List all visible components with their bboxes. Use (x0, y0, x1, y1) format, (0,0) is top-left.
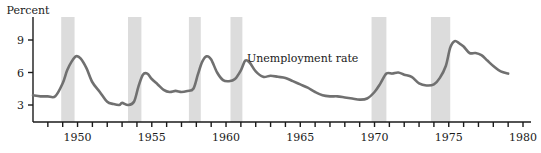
x-tick-label: 1960 (212, 131, 240, 144)
axes-group (33, 17, 531, 122)
x-tick-labels-group: 1950195519601965197019751980 (64, 131, 537, 144)
y-axis-title: Percent (7, 4, 50, 17)
y-tick-label: 3 (17, 99, 24, 112)
series-annotation-label: Unemployment rate (247, 52, 358, 65)
y-tick-labels-group: 369 (17, 34, 24, 112)
x-tick-label: 1950 (64, 131, 92, 144)
x-ticks-group (48, 122, 523, 127)
y-tick-label: 9 (17, 34, 24, 47)
recession-band (372, 17, 387, 122)
x-tick-label: 1970 (361, 131, 389, 144)
x-tick-label: 1955 (138, 131, 166, 144)
x-tick-label: 1980 (509, 131, 537, 144)
y-tick-label: 6 (17, 67, 24, 80)
recession-band (431, 17, 450, 122)
chart-canvas: 369 1950195519601965197019751980 Percent… (0, 0, 541, 153)
unemployment-rate-chart-figure: 369 1950195519601965197019751980 Percent… (0, 0, 541, 153)
recession-band (128, 17, 141, 122)
x-tick-label: 1965 (286, 131, 314, 144)
x-tick-label: 1975 (435, 131, 463, 144)
